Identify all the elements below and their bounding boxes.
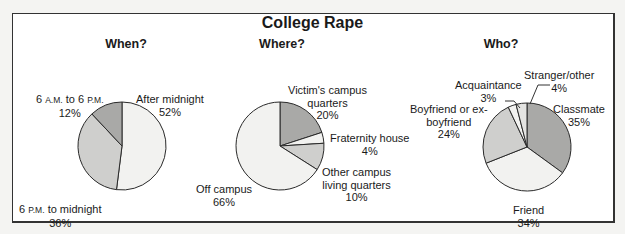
- label-6am-6pm: 6 A.M. to 6 P.M. 12%: [36, 93, 104, 119]
- label-boyfriend: Boyfriend or ex- boyfriend 24%: [410, 103, 488, 141]
- label-after-midnight: After midnight 52%: [136, 93, 204, 118]
- label-victims-quarters: Victim's campus quarters 20%: [288, 84, 367, 122]
- label-stranger-other: Stranger/other 4%: [524, 69, 594, 94]
- label-acquaintance: Acquaintance 3%: [455, 79, 522, 104]
- label-classmate: Classmate 35%: [553, 103, 605, 128]
- label-6pm-midnight: 6 P.M. to midnight 36%: [19, 203, 101, 229]
- label-fraternity-house: Fraternity house 4%: [330, 132, 409, 157]
- label-other-campus: Other campus living quarters 10%: [322, 166, 391, 204]
- label-off-campus: Off campus 66%: [196, 183, 252, 208]
- label-friend: Friend 34%: [513, 204, 544, 229]
